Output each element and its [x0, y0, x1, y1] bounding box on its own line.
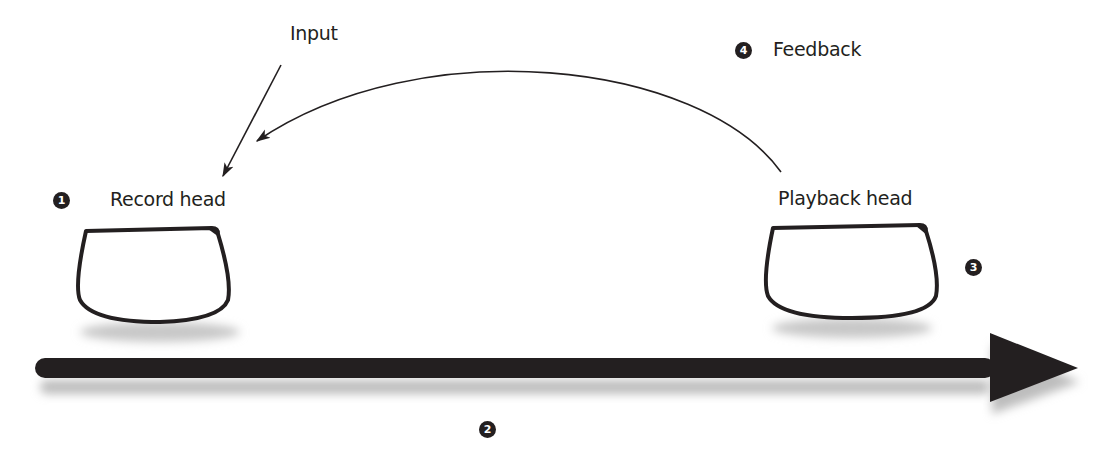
record-head-shadow [80, 322, 240, 342]
record-head-label: Record head [110, 190, 226, 209]
feedback-arc-arrow [257, 71, 781, 172]
feedback-badge: 4 [735, 42, 752, 59]
input-label: Input [290, 24, 338, 43]
playback-head-badge: 3 [965, 259, 982, 276]
playback-head-shadow [772, 318, 932, 338]
record-head-badge: 1 [53, 192, 70, 209]
tape-arrow-shadow [40, 380, 990, 394]
playback-head-shape [766, 225, 937, 318]
tape-motion-badge: 2 [479, 421, 496, 438]
feedback-label: Feedback [773, 40, 861, 59]
diagram-canvas [0, 0, 1115, 462]
playback-head-label: Playback head [778, 189, 912, 208]
tape-motion-bar [35, 358, 995, 378]
record-head-shape [78, 228, 229, 322]
input-arrow [223, 65, 281, 176]
